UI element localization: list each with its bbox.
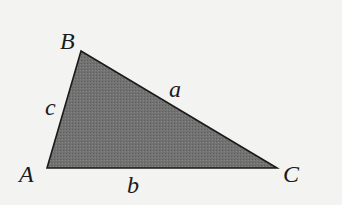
vertex-label-b: B xyxy=(60,28,75,54)
triangle-diagram: A B C a b c xyxy=(0,0,342,205)
side-label-a: a xyxy=(169,76,181,102)
vertex-label-c: C xyxy=(283,161,300,187)
side-label-c: c xyxy=(45,94,56,120)
side-label-b: b xyxy=(127,172,139,198)
vertex-label-a: A xyxy=(17,161,34,187)
triangle-shape xyxy=(47,51,277,168)
